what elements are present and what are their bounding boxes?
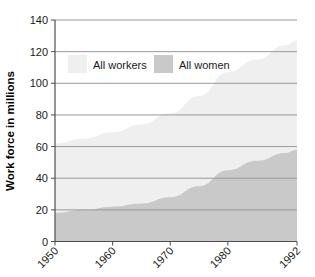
y-tick-label-40: 40 bbox=[36, 172, 48, 184]
y-tick-label-0: 0 bbox=[42, 236, 48, 248]
legend-label-all-women: All women bbox=[179, 59, 230, 71]
work-force-area-chart: 020406080100120140 19501960197019801992 … bbox=[0, 0, 315, 277]
y-axis-title: Work force in millions bbox=[4, 71, 16, 191]
y-tick-label-120: 120 bbox=[30, 46, 48, 58]
legend-swatch-all-workers bbox=[68, 55, 87, 73]
y-tick-label-80: 80 bbox=[36, 109, 48, 121]
y-tick-label-60: 60 bbox=[36, 141, 48, 153]
y-tick-label-140: 140 bbox=[30, 14, 48, 26]
y-tick-label-100: 100 bbox=[30, 77, 48, 89]
legend-swatch-all-women bbox=[154, 55, 173, 73]
y-tick-label-20: 20 bbox=[36, 204, 48, 216]
legend-label-all-workers: All workers bbox=[93, 59, 147, 71]
chart-canvas: 020406080100120140 19501960197019801992 … bbox=[0, 0, 315, 277]
